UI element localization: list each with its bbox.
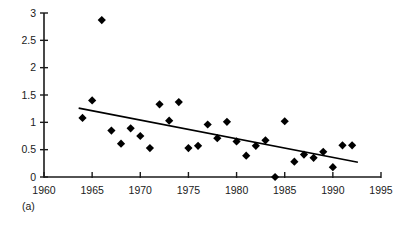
x-tick-label: 1980	[225, 184, 249, 196]
x-tick-label: 1965	[80, 184, 104, 196]
data-point-marker	[117, 140, 125, 148]
y-tick-label: 1	[30, 116, 36, 128]
data-point-marker	[223, 118, 231, 126]
data-point-marker	[107, 126, 115, 134]
data-point-marker	[78, 114, 86, 122]
y-tick-label: 0.5	[21, 143, 36, 155]
data-point-marker	[329, 163, 337, 171]
data-point-marker	[242, 152, 250, 160]
x-axis-ticks: 19601965197019751980198519901995	[32, 172, 393, 196]
y-tick-label: 2	[30, 61, 36, 73]
chart-figure: 00.511.522.53 19601965197019751980198519…	[0, 0, 410, 227]
data-point-marker	[88, 96, 96, 104]
x-tick-label: 1975	[177, 184, 201, 196]
y-tick-label: 0	[30, 171, 36, 183]
x-tick-label: 1990	[321, 184, 345, 196]
x-tick-label: 1970	[129, 184, 153, 196]
data-point-marker	[146, 144, 154, 152]
data-point-marker	[338, 141, 346, 149]
data-point-marker	[290, 158, 298, 166]
data-point-marker	[184, 144, 192, 152]
scatter-plot-svg: 00.511.522.53 19601965197019751980198519…	[0, 0, 410, 227]
x-tick-label: 1995	[369, 184, 393, 196]
data-point-marker	[204, 120, 212, 128]
data-point-marker	[98, 16, 106, 24]
data-points-group	[78, 16, 356, 181]
panel-label: (a)	[22, 200, 35, 212]
data-point-marker	[165, 117, 173, 125]
y-tick-label: 3	[30, 7, 36, 19]
data-point-marker	[136, 132, 144, 140]
data-point-marker	[155, 100, 163, 108]
data-point-marker	[281, 117, 289, 125]
axes-group	[44, 13, 381, 177]
data-point-marker	[175, 98, 183, 106]
x-tick-label: 1985	[273, 184, 297, 196]
y-tick-label: 1.5	[21, 89, 36, 101]
y-tick-label: 2.5	[21, 34, 36, 46]
data-point-marker	[127, 124, 135, 132]
data-point-marker	[348, 141, 356, 149]
data-point-marker	[271, 173, 279, 181]
data-point-marker	[194, 142, 202, 150]
x-tick-label: 1960	[32, 184, 56, 196]
